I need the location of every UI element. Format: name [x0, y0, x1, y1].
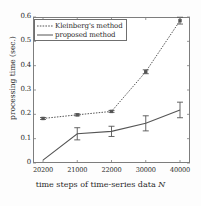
legend-line-solid-icon: [37, 31, 53, 39]
x-axis-ticks: 2020021000220003000040000: [0, 166, 201, 178]
legend-label-kleinberg: Kleinberg's method: [55, 22, 123, 30]
legend-label-proposed: proposed method: [55, 31, 115, 39]
data-point-marker: [144, 70, 147, 73]
legend-entry-proposed: proposed method: [37, 30, 123, 39]
chart-figure: 00.10.20.30.40.50.6 processing time (sec…: [0, 0, 201, 206]
y-tick-label: 0.1: [5, 135, 31, 142]
legend-entry-kleinberg: Kleinberg's method: [37, 21, 123, 30]
data-point-marker: [76, 113, 79, 116]
legend: Kleinberg's method proposed method: [34, 19, 127, 41]
data-point-marker: [41, 117, 44, 120]
error-bar: [177, 102, 183, 118]
x-axis-title: time steps of time-series data N: [0, 180, 201, 190]
legend-line-dotted-icon: [37, 22, 53, 30]
x-axis-variable: N: [158, 180, 165, 189]
y-tick-label: 0.6: [5, 13, 31, 20]
x-axis-title-text: time steps of time-series data: [36, 180, 159, 189]
data-point-marker: [110, 110, 113, 113]
y-axis-title: processing time (sec.): [9, 23, 17, 133]
y-tick-label: 0: [5, 159, 31, 166]
x-tick-label: 40000: [158, 166, 201, 174]
